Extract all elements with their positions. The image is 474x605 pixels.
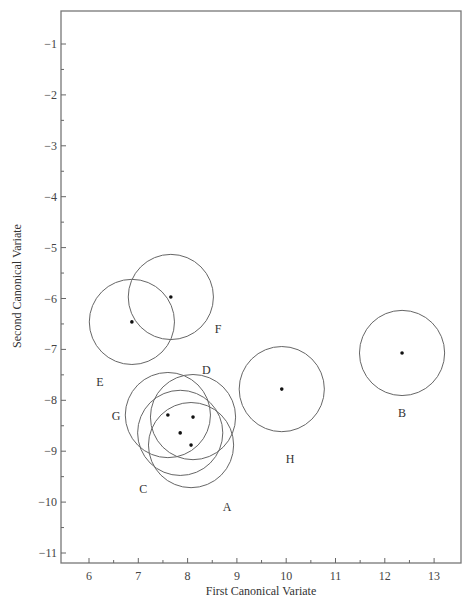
y-tick-label: −2 (44, 88, 57, 102)
group-mean-dot (178, 431, 182, 435)
group-mean-dot (400, 351, 404, 355)
canonical-variate-plot: 678910111213 −1−2−3−4−5−6−7−8−9−10−11 AB… (0, 0, 474, 605)
y-tick-label: −9 (44, 444, 57, 458)
y-axis-title: Second Canonical Variate (10, 224, 24, 348)
y-axis-ticks: −1−2−3−4−5−6−7−8−9−10−11 (38, 37, 66, 560)
group-label: B (398, 406, 406, 420)
x-tick-label: 9 (234, 569, 240, 583)
group-mean-dot (169, 295, 173, 299)
group-mean-dot (189, 443, 193, 447)
group-circles: ABCDEFGH (89, 254, 444, 514)
y-tick-label: −7 (44, 342, 57, 356)
x-tick-label: 8 (185, 569, 191, 583)
y-tick-label: −8 (44, 393, 57, 407)
group-d: D (150, 363, 235, 460)
y-tick-label: −6 (44, 292, 57, 306)
group-label: F (215, 322, 222, 336)
x-tick-label: 11 (330, 569, 342, 583)
y-tick-label: −3 (44, 139, 57, 153)
x-tick-label: 7 (135, 569, 141, 583)
x-axis-title: First Canonical Variate (206, 584, 316, 598)
group-b: B (359, 310, 444, 420)
group-label: H (286, 452, 295, 466)
x-tick-label: 13 (428, 569, 440, 583)
x-tick-label: 6 (86, 569, 92, 583)
group-mean-dot (130, 320, 134, 324)
group-label: G (112, 409, 121, 423)
x-tick-label: 10 (280, 569, 292, 583)
group-label: E (96, 375, 103, 389)
y-tick-label: −4 (44, 190, 57, 204)
group-label: C (139, 482, 147, 496)
group-f: F (128, 254, 222, 339)
y-tick-label: −11 (39, 546, 57, 560)
x-axis-ticks: 678910111213 (86, 558, 440, 583)
plot-frame (61, 11, 461, 563)
group-h: H (239, 347, 324, 466)
y-tick-label: −10 (38, 495, 57, 509)
group-label: D (202, 363, 211, 377)
group-label: A (223, 500, 232, 514)
x-tick-label: 12 (379, 569, 391, 583)
group-mean-dot (166, 413, 170, 417)
y-tick-label: −1 (44, 37, 57, 51)
group-mean-dot (280, 387, 284, 391)
group-mean-dot (191, 415, 195, 419)
y-tick-label: −5 (44, 241, 57, 255)
